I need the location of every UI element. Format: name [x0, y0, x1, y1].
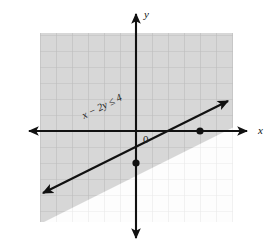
coordinate-plane-svg: 0 x y x − 2y ≤ 4	[0, 0, 277, 251]
y-axis-label: y	[143, 8, 149, 20]
origin-label: 0	[143, 133, 149, 145]
point-x-intercept	[196, 127, 203, 134]
point-y-intercept	[132, 159, 139, 166]
x-axis-label: x	[257, 124, 263, 136]
graph-figure: 0 x y x − 2y ≤ 4	[0, 0, 277, 251]
